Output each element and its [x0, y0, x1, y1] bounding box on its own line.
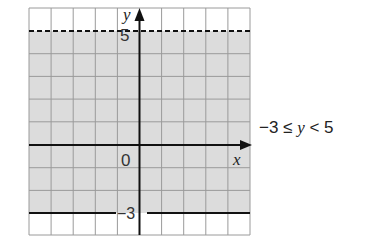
x-axis-label: x [232, 150, 241, 169]
inequality-left: −3 ≤ [259, 118, 297, 137]
inequality-variable: y [297, 118, 305, 137]
tick-label-5: 5 [120, 26, 129, 45]
inequality-annotation: −3 ≤ y < 5 [259, 118, 334, 138]
origin-label: 0 [121, 151, 130, 170]
inequality-right: < 5 [305, 118, 334, 137]
tick-label-neg3: −3 [117, 205, 135, 222]
y-axis-label: y [121, 5, 131, 24]
